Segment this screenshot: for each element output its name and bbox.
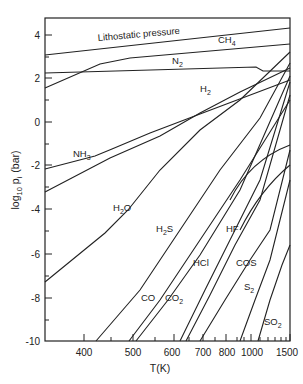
label-so2: SO2 <box>264 316 282 329</box>
y-tick-label: -6 <box>31 249 40 260</box>
curve-cos-upper <box>240 165 290 230</box>
y-tick-label: -2 <box>31 160 40 171</box>
y-tick-label: -10 <box>26 336 41 347</box>
label-ch4: CH4 <box>218 34 236 47</box>
x-tick-label: 1500 <box>276 347 299 358</box>
x-tick-label: 400 <box>76 347 93 358</box>
x-tick-label: 700 <box>195 347 212 358</box>
series-labels: Lithostatic pressure CH4 N2 H2 NH3 H2O H… <box>73 25 282 329</box>
curve-hcl <box>180 82 290 341</box>
x-tick-label: 800 <box>219 347 236 358</box>
x-axis-title: T(K) <box>150 362 170 374</box>
y-tick-labels: 4 2 0 -2 -4 -6 -8 -10 <box>26 30 41 347</box>
label-h2: H2 <box>200 83 211 96</box>
label-h2o: H2O <box>113 202 131 215</box>
label-cos: COS <box>236 257 257 268</box>
y-tick-label: 0 <box>34 117 40 128</box>
label-lithostatic: Lithostatic pressure <box>97 25 180 43</box>
y-tick-label: 4 <box>34 30 40 41</box>
y-tick-label: -8 <box>31 293 40 304</box>
y-axis-title: log10pi(bar) <box>9 150 24 209</box>
svg-text:log10pi(bar): log10pi(bar) <box>9 150 24 209</box>
curve-n2 <box>45 67 290 73</box>
curve-h2o <box>45 52 290 282</box>
label-h2s: H2S <box>156 223 173 236</box>
label-co: CO <box>141 292 155 303</box>
x-tick-label: 1000 <box>241 347 264 358</box>
label-co2: CO2 <box>165 292 183 305</box>
label-s2: S2 <box>244 281 254 294</box>
chart: 4 2 0 -2 -4 -6 -8 -10 400 500 600 700 80… <box>0 0 303 384</box>
label-n2: N2 <box>172 55 183 68</box>
x-tick-label: 600 <box>164 347 181 358</box>
curve-co <box>129 100 290 341</box>
x-tick-labels: 400 500 600 700 800 1000 1500 <box>76 347 299 358</box>
y-tick-label: 2 <box>34 73 40 84</box>
x-tick-label: 500 <box>125 347 142 358</box>
label-hcl: HCl <box>193 257 209 268</box>
y-tick-label: -4 <box>31 204 40 215</box>
label-hf: HF <box>226 223 239 234</box>
